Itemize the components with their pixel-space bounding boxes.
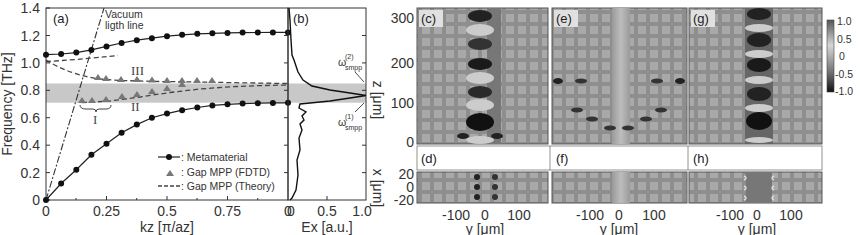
legend-metamaterial: : Metamaterial xyxy=(181,151,248,163)
z-axis-label: z [μm] xyxy=(370,81,386,119)
panel-h xyxy=(689,172,822,203)
omega1-superscript: (1) xyxy=(345,113,354,121)
panel-label-h: (h) xyxy=(693,151,709,166)
mode-label-III: III xyxy=(131,63,144,78)
x-tick: 0.75 xyxy=(214,203,241,219)
omega2-superscript: (2) xyxy=(345,53,354,61)
legend-theory: : Gap MPP (Theory) xyxy=(181,180,275,192)
metamaterial-upper-markers xyxy=(43,29,291,57)
mode-label-II: II xyxy=(131,99,140,114)
x-tick: 0.5 xyxy=(157,203,177,219)
legend-a: : Metamaterial : Gap MPP (FDTD) : Gap MP… xyxy=(158,151,275,192)
x-side-axis-label: x [μm] xyxy=(370,169,386,207)
y-field-tick: 100 xyxy=(779,207,803,223)
panel-label-a: (a) xyxy=(53,11,69,26)
omega2-arrow xyxy=(355,72,364,82)
y-tick: 0.2 xyxy=(21,165,41,181)
gap-mpp-theory-branch xyxy=(46,56,118,62)
x-tick: 0.5 xyxy=(317,203,337,219)
y-field-tick: 100 xyxy=(642,207,666,223)
y-axis-label-a: Frequency [THz] xyxy=(0,52,15,155)
z-tick: 0 xyxy=(406,134,414,150)
brace-I xyxy=(80,105,111,112)
z-tick: 100 xyxy=(391,95,415,111)
mode-label-I: I xyxy=(93,112,97,127)
omega1-subscript: smpp xyxy=(345,124,362,132)
z-tick: 300 xyxy=(391,10,415,26)
panel-label-g: (g) xyxy=(693,11,709,26)
figure: 0 0.2 0.4 0.6 0.8 1.0 1.2 1.4 0 0.25 0.5… xyxy=(0,0,860,235)
panel-c: (c) xyxy=(417,8,548,144)
colorbar-tick: -1.0 xyxy=(835,85,853,97)
x-side-tick: -20 xyxy=(394,192,414,208)
panel-label-e: (e) xyxy=(556,11,572,26)
y-tick: 0.8 xyxy=(21,82,41,98)
x-axis-label-a: kz [π/az] xyxy=(140,219,194,235)
y-field-tick: 100 xyxy=(507,207,531,223)
x-axis-label-b: Ex [a.u.] xyxy=(301,219,352,235)
z-tick: 200 xyxy=(391,55,415,71)
panel-label-b: (b) xyxy=(293,11,309,26)
panel-label-f: (f) xyxy=(556,151,568,166)
y-tick: 0 xyxy=(32,192,40,208)
x-tick: 0 xyxy=(42,203,50,219)
omega1-arrow xyxy=(355,103,364,112)
panel-label-c: (c) xyxy=(421,11,436,26)
y-tick: 1.0 xyxy=(21,55,41,71)
colorbar-tick: 0.5 xyxy=(837,33,852,45)
panel-label-d: (d) xyxy=(421,151,437,166)
panel-e: (e) xyxy=(552,8,687,144)
y-tick: 0.4 xyxy=(21,137,41,153)
omega2-subscript: smpp xyxy=(345,64,362,72)
panel-b: 0 0.5 1.0 Ex [a.u.] (b) ω (2) smpp ω (1)… xyxy=(287,8,372,235)
colorbar: 1.0 0.5 0 -0.5 -1.0 xyxy=(827,15,853,97)
light-line-label: ligth line xyxy=(105,19,144,31)
field-maps: 300 200 100 0 z [μm] 20 0 -20 x [μm] (c) xyxy=(370,8,853,235)
colorbar-tick: 1.0 xyxy=(837,15,852,27)
x-tick: 1.0 xyxy=(352,203,372,219)
colorbar-tick: -0.5 xyxy=(835,68,853,80)
ex-spectrum-curve xyxy=(289,8,366,200)
y-field-label-g: y [μm] xyxy=(738,221,776,235)
y-field-label-e: y [μm] xyxy=(600,221,638,235)
y-tick: 1.2 xyxy=(21,28,41,44)
panel-f xyxy=(552,172,687,203)
panel-d xyxy=(417,172,548,203)
panel-g: (g) xyxy=(689,8,822,144)
y-tick: 1.4 xyxy=(21,0,41,16)
y-tick: 0.6 xyxy=(21,110,41,126)
colorbar-tick: 0 xyxy=(839,50,845,62)
legend-fdtd: : Gap MPP (FDTD) xyxy=(181,166,270,178)
x-tick: 0 xyxy=(287,203,295,219)
y-field-label-c: y [μm] xyxy=(466,221,504,235)
bandgap-shading xyxy=(46,84,366,103)
x-tick: 0.25 xyxy=(93,203,120,219)
